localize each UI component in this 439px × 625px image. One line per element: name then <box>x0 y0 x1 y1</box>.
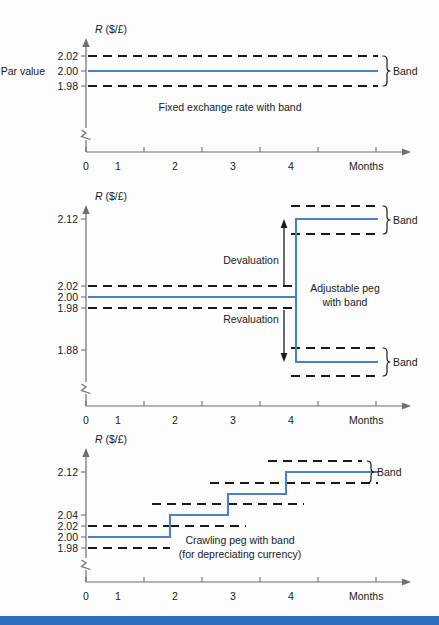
panel2-x-tick-label-4: 4 <box>288 414 294 426</box>
panel2-x-tick-label-1: 1 <box>115 414 121 426</box>
panel3-x-axis-arrowhead <box>402 578 411 585</box>
panel1-y-axis-label: R ($/£) <box>95 23 127 35</box>
panel1-x-tick-label-2: 2 <box>172 160 178 172</box>
panel2-devaluation-label: Devaluation <box>223 254 279 266</box>
panel2-devaluation-arrowhead <box>281 219 288 228</box>
panel2-y-tick-label-188: 1.88 <box>58 344 79 356</box>
panel2-caption-line1: Adjustable peg <box>310 282 380 294</box>
panel3-x-tick-label-0: 0 <box>83 590 89 602</box>
panel3-x-tick-label-1: 1 <box>115 590 121 602</box>
panel2-x-tick-label-2: 2 <box>172 414 178 426</box>
panel2-upper-band-bracket <box>383 206 390 234</box>
panel3-caption-line1: Crawling peg with band <box>185 534 294 546</box>
panel1-band-bracket <box>383 56 390 86</box>
panel3-x-tick-label-2: 2 <box>172 590 178 602</box>
panel1-caption: Fixed exchange rate with band <box>158 101 301 113</box>
panel2-caption-line2: with band <box>322 296 368 308</box>
panel3-axis-break-icon <box>82 560 91 570</box>
panel2-upper-band-label: Band <box>393 214 418 226</box>
panel1-band-label: Band <box>393 65 418 77</box>
panel3-x-axis-title: Months <box>349 590 383 602</box>
panel1-x-tick-label-3: 3 <box>230 160 236 172</box>
panel3-y-axis-label: R ($/£) <box>95 433 127 445</box>
panel3-y-tick-label-198: 1.98 <box>58 542 79 554</box>
exchange-rate-regimes-figure: R ($/£) 0 1 2 3 4 Months 2.02 2.00 1.98 <box>0 0 439 625</box>
panel3-band-label: Band <box>377 466 402 478</box>
panel1-y-tick-label-200: 2.00 <box>58 65 79 77</box>
panel2-y-tick-label-198: 1.98 <box>58 302 79 314</box>
panel2-lower-band-label: Band <box>393 356 418 368</box>
panel2-y-tick-label-212: 2.12 <box>58 213 79 225</box>
panel-adjustable-peg: R ($/£) 0 1 2 3 4 Months 2.12 2.02 2.00 … <box>58 190 418 426</box>
panel2-lower-band-bracket <box>383 348 390 376</box>
panel1-x-axis-arrowhead <box>402 148 411 155</box>
panel3-y-tick-label-212: 2.12 <box>58 466 79 478</box>
panel3-caption-line2: (for depreciating currency) <box>179 548 302 560</box>
panel1-y-tick-label-198: 1.98 <box>58 80 79 92</box>
panel3-x-tick-label-3: 3 <box>230 590 236 602</box>
panel2-x-axis-arrowhead <box>402 402 411 409</box>
panel1-axis-break-icon <box>82 130 91 140</box>
panel1-x-tick-label-0: 0 <box>83 160 89 172</box>
panel1-x-tick-label-4: 4 <box>288 160 294 172</box>
panel-fixed-exchange-rate: R ($/£) 0 1 2 3 4 Months 2.02 2.00 1.98 <box>1 23 418 172</box>
panel2-revaluation-label: Revaluation <box>223 313 279 325</box>
panel3-y-axis-arrowhead <box>82 448 89 457</box>
panel1-y-tick-label-202: 2.02 <box>58 50 79 62</box>
panel2-y-axis-label: R ($/£) <box>95 190 127 202</box>
panel3-x-tick-label-4: 4 <box>288 590 294 602</box>
panel1-x-tick-label-1: 1 <box>115 160 121 172</box>
footer-accent-bar <box>0 616 439 625</box>
panel-crawling-peg: R ($/£) 0 1 2 3 4 Months 2.12 2.04 2.02 … <box>58 433 411 602</box>
panel2-axis-break-icon <box>82 384 91 394</box>
panel2-x-tick-label-0: 0 <box>83 414 89 426</box>
panel2-x-axis-title: Months <box>349 414 383 426</box>
panel2-x-tick-label-3: 3 <box>230 414 236 426</box>
panel1-x-axis-title: Months <box>349 160 383 172</box>
panel2-revaluation-arrowhead <box>281 353 288 362</box>
panel2-y-axis-arrowhead <box>82 205 89 214</box>
panel1-par-value-label: Par value <box>1 65 46 77</box>
panel1-y-axis-arrowhead <box>82 38 89 47</box>
